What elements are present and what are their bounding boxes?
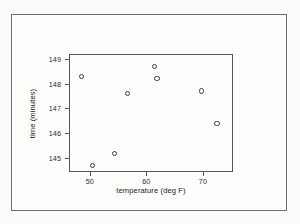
x-axis-tick-label: 60 (142, 177, 150, 186)
y-axis-title: time (minutes) (27, 54, 39, 172)
data-point (112, 151, 117, 156)
x-axis-tick-label: 70 (199, 177, 207, 186)
y-axis-title-text: time (minutes) (29, 88, 38, 138)
data-point (152, 64, 157, 69)
data-point (214, 121, 219, 126)
y-axis-tick (65, 133, 70, 134)
data-point (199, 88, 204, 93)
plot-area: 145146147148149506070 (69, 54, 233, 172)
y-axis-tick (65, 108, 70, 109)
y-axis-tick (65, 84, 70, 85)
y-axis-tick-label: 148 (49, 79, 61, 88)
figure-root: 145146147148149506070 temperature (deg F… (0, 0, 300, 224)
data-point (79, 74, 84, 79)
y-axis-tick (65, 158, 70, 159)
y-axis-tick-label: 149 (49, 54, 61, 63)
y-axis-tick-label: 146 (49, 129, 61, 138)
x-axis-tick (203, 171, 204, 176)
data-point (154, 76, 159, 81)
x-axis-tick (90, 171, 91, 176)
x-axis-tick-label: 50 (86, 177, 94, 186)
y-axis-tick (65, 59, 70, 60)
y-axis-tick-label: 147 (49, 104, 61, 113)
y-axis-tick-label: 145 (49, 154, 61, 163)
x-axis-title: temperature (deg F) (69, 186, 233, 195)
data-point (90, 163, 95, 168)
x-axis-tick (146, 171, 147, 176)
data-point (125, 91, 130, 96)
